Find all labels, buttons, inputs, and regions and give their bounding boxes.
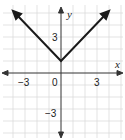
x-tick-0: 0 bbox=[52, 77, 58, 88]
grid bbox=[3, 5, 123, 138]
y-tick-neg3: −3 bbox=[45, 108, 57, 119]
y-tick-3: 3 bbox=[52, 32, 58, 43]
x-tick-3: 3 bbox=[94, 77, 100, 88]
graph: y x −3 0 3 3 −3 bbox=[0, 0, 125, 140]
axes bbox=[2, 7, 123, 138]
x-tick-neg3: −3 bbox=[18, 77, 30, 88]
y-axis-label: y bbox=[66, 8, 72, 20]
x-axis-label: x bbox=[114, 58, 120, 70]
